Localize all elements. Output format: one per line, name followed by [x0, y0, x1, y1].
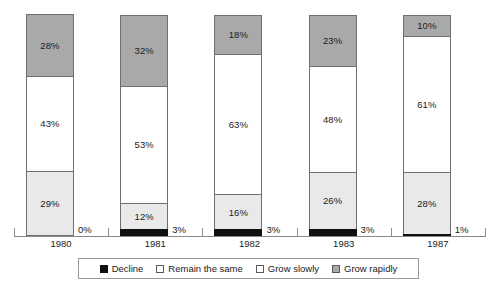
x-axis-tick [108, 228, 109, 237]
plot-area: 28%43%29%0%32%53%12%3%18%63%16%3%23%48%2… [14, 12, 485, 236]
segment-value-label: 23% [323, 36, 342, 46]
stacked-bar-1981[interactable]: 32%53%12% [120, 15, 168, 236]
decline-value-label-1980: 0% [78, 225, 92, 235]
x-axis-line [14, 236, 485, 237]
x-axis-tick [485, 228, 486, 237]
legend-item-decline[interactable]: Decline [100, 264, 144, 274]
segment-value-label: 61% [417, 100, 436, 110]
segment-value-label: 53% [135, 140, 154, 150]
bar-segment-grow-rapidly-1987[interactable]: 10% [403, 15, 451, 37]
legend-swatch-grow-slowly [256, 265, 264, 273]
scan-artifact-row [0, 0, 495, 7]
bar-column-1987: 10%61%28%1% [391, 12, 485, 236]
chart-legend: DeclineRemain the sameGrow slowlyGrow ra… [78, 258, 419, 279]
decline-value-label-1983: 3% [361, 225, 375, 235]
x-axis-label-1981: 1981 [108, 239, 202, 249]
x-axis-tick [297, 228, 298, 237]
bar-segment-grow-rapidly-1982[interactable]: 18% [214, 15, 262, 55]
bar-segment-decline-1981[interactable] [120, 229, 168, 236]
x-axis-tick [202, 228, 203, 237]
x-axis-label-1982: 1982 [202, 239, 296, 249]
x-axis-label-1987: 1987 [391, 239, 485, 249]
segment-value-label: 63% [229, 120, 248, 130]
bar-segment-grow-slowly-1982[interactable]: 63% [214, 54, 262, 195]
stacked-bar-chart: 28%43%29%0%32%53%12%3%18%63%16%3%23%48%2… [0, 0, 495, 296]
bar-column-1983: 23%48%26%3% [297, 12, 391, 236]
segment-value-label: 29% [40, 199, 59, 209]
x-axis-label-1983: 1983 [297, 239, 391, 249]
legend-item-grow-slowly[interactable]: Grow slowly [256, 264, 319, 274]
bar-segment-remain-the-same-1981[interactable]: 12% [120, 203, 168, 230]
segment-value-label: 28% [417, 199, 436, 209]
bar-segment-grow-slowly-1981[interactable]: 53% [120, 86, 168, 205]
legend-swatch-decline [100, 265, 108, 273]
decline-value-label-1981: 3% [172, 225, 186, 235]
bar-segment-remain-the-same-1982[interactable]: 16% [214, 194, 262, 230]
bar-segment-grow-rapidly-1981[interactable]: 32% [120, 15, 168, 87]
legend-label: Grow rapidly [344, 264, 397, 274]
bar-column-1980: 28%43%29%0% [14, 12, 108, 236]
segment-value-label: 10% [417, 21, 436, 31]
stacked-bar-1987[interactable]: 10%61%28% [403, 15, 451, 236]
x-axis-tick [391, 228, 392, 237]
bar-segment-grow-slowly-1987[interactable]: 61% [403, 36, 451, 173]
legend-label: Decline [112, 264, 144, 274]
bar-column-1982: 18%63%16%3% [202, 12, 296, 236]
legend-swatch-remain-the-same [156, 265, 164, 273]
bar-segment-remain-the-same-1983[interactable]: 26% [309, 172, 357, 230]
segment-value-label: 16% [229, 208, 248, 218]
bar-segment-decline-1982[interactable] [214, 229, 262, 236]
decline-value-label-1987: 1% [455, 225, 469, 235]
segment-value-label: 28% [40, 41, 59, 51]
x-axis-tick [14, 228, 15, 237]
stacked-bar-1982[interactable]: 18%63%16% [214, 15, 262, 236]
legend-label: Grow slowly [268, 264, 319, 274]
legend-item-grow-rapidly[interactable]: Grow rapidly [332, 264, 397, 274]
stacked-bar-1980[interactable]: 28%43%29% [26, 14, 74, 236]
segment-value-label: 18% [229, 30, 248, 40]
bar-segment-grow-rapidly-1983[interactable]: 23% [309, 15, 357, 67]
bar-segment-grow-slowly-1980[interactable]: 43% [26, 76, 74, 172]
bar-column-1981: 32%53%12%3% [108, 12, 202, 236]
segment-value-label: 43% [40, 119, 59, 129]
bar-segment-remain-the-same-1987[interactable]: 28% [403, 172, 451, 235]
bar-segment-grow-rapidly-1980[interactable]: 28% [26, 14, 74, 77]
bar-segment-decline-1983[interactable] [309, 229, 357, 236]
legend-item-remain-the-same[interactable]: Remain the same [156, 264, 242, 274]
segment-value-label: 48% [323, 115, 342, 125]
bar-segment-grow-slowly-1983[interactable]: 48% [309, 66, 357, 174]
bar-segment-remain-the-same-1980[interactable]: 29% [26, 171, 74, 236]
decline-value-label-1982: 3% [266, 225, 280, 235]
x-axis-label-1980: 1980 [14, 239, 108, 249]
segment-value-label: 12% [135, 212, 154, 222]
legend-label: Remain the same [168, 264, 242, 274]
segment-value-label: 32% [135, 46, 154, 56]
segment-value-label: 26% [323, 196, 342, 206]
stacked-bar-1983[interactable]: 23%48%26% [309, 15, 357, 236]
legend-swatch-grow-rapidly [332, 265, 340, 273]
